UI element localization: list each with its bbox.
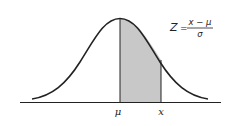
- mu-label: μ: [115, 106, 122, 117]
- z-score-formula: Z = x − μ σ: [169, 17, 213, 39]
- x-label: x: [158, 106, 164, 117]
- normal-distribution-diagram: μ x Z = x − μ σ: [0, 0, 233, 126]
- formula-denominator: σ: [197, 29, 203, 39]
- formula-equals: =: [180, 23, 188, 33]
- formula-numerator: x − μ: [188, 17, 213, 27]
- formula-lhs: Z: [169, 21, 178, 34]
